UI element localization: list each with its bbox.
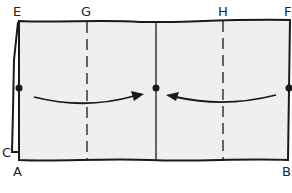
left-dot [16,85,23,92]
label-c: C [2,146,11,159]
label-f: F [284,5,291,18]
label-h: H [218,5,228,18]
center-dot [153,85,160,92]
folding-diagram [0,0,292,193]
label-g: G [81,5,91,18]
label-a: A [13,165,22,178]
label-e: E [13,5,21,18]
label-b: B [282,165,291,178]
